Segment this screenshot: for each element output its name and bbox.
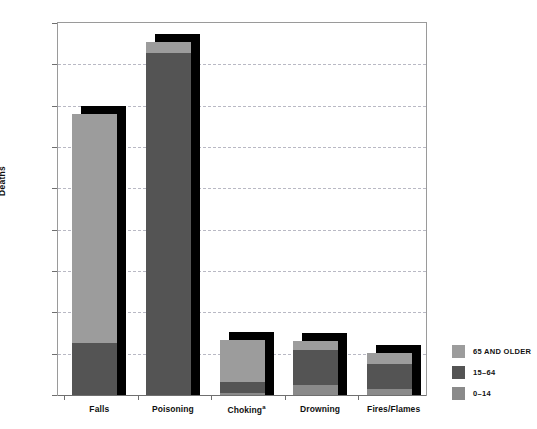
x-tick-mark <box>64 395 65 400</box>
bar-segment <box>146 53 191 395</box>
x-tick-label: Falls <box>89 404 109 414</box>
plot-area <box>57 22 427 396</box>
bar-group-choking[interactable] <box>220 23 265 395</box>
bar-segment <box>367 389 412 395</box>
bar-segment <box>72 343 117 395</box>
bar-stack[interactable] <box>367 353 412 395</box>
bar-segment <box>220 340 265 382</box>
legend-swatch <box>452 366 465 379</box>
bar-stack[interactable] <box>72 114 117 395</box>
legend-swatch <box>452 345 465 358</box>
x-tick-mark <box>285 395 286 400</box>
legend-item[interactable]: 15–64 <box>452 362 531 383</box>
legend-item[interactable]: 65 AND OLDER <box>452 341 531 362</box>
legend-label: 65 AND OLDER <box>473 347 531 356</box>
bars-layer <box>58 23 426 395</box>
bar-segment <box>220 393 265 395</box>
bar-group-drowning[interactable] <box>293 23 338 395</box>
bar-segment <box>293 341 338 351</box>
bar-segment <box>146 42 191 53</box>
bar-segment <box>367 353 412 364</box>
legend-label: 0–14 <box>473 389 491 398</box>
chart-container: Deaths 03,0006,0009,00012,00015,00018,00… <box>0 0 537 429</box>
x-label-footnote: a <box>262 404 265 410</box>
bar-group-poisoning[interactable] <box>146 23 191 395</box>
bar-group-fires-flames[interactable] <box>367 23 412 395</box>
x-tick-label: Poisoning <box>152 404 194 414</box>
x-tick-mark <box>138 395 139 400</box>
legend-item[interactable]: 0–14 <box>452 383 531 404</box>
legend-swatch <box>452 387 465 400</box>
bar-segment <box>367 364 412 389</box>
bar-stack[interactable] <box>146 42 191 395</box>
x-tick-mark <box>358 395 359 400</box>
legend: 65 AND OLDER15–640–14 <box>452 341 531 404</box>
bar-segment <box>293 385 338 395</box>
bar-segment <box>72 114 117 343</box>
x-tick-label: Chokinga <box>227 404 265 415</box>
x-tick-mark <box>211 395 212 400</box>
bar-group-falls[interactable] <box>72 23 117 395</box>
legend-label: 15–64 <box>473 368 495 377</box>
bar-stack[interactable] <box>293 341 338 395</box>
bar-segment <box>293 350 338 385</box>
bar-stack[interactable] <box>220 340 265 395</box>
gridline <box>58 395 426 396</box>
x-tick-label: Drowning <box>300 404 340 414</box>
bar-segment <box>220 382 265 393</box>
x-tick-label: Fires/Flames <box>367 404 420 414</box>
